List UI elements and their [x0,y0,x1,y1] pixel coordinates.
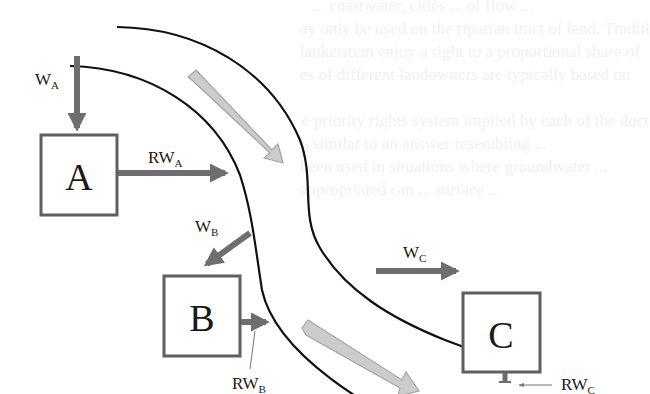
river-bank-left [70,66,473,394]
node-a: A [41,135,117,215]
node-b: B [164,276,240,356]
flow-arrow-lower [302,320,419,394]
label-w-c: WC [403,243,426,264]
label-rw-c: RWC [561,375,595,394]
label-rw-b: RWB [232,374,266,394]
return-arrow-c [499,373,511,382]
label-w-b: WB [195,217,218,238]
label-rw-a: RWA [148,148,182,169]
node-c: C [463,293,540,372]
box-c-label: C [488,314,513,356]
box-b-label: B [189,297,214,339]
box-a-label: A [65,156,93,198]
rw-b-pointer [250,331,255,369]
label-w-a: WA [35,70,59,91]
